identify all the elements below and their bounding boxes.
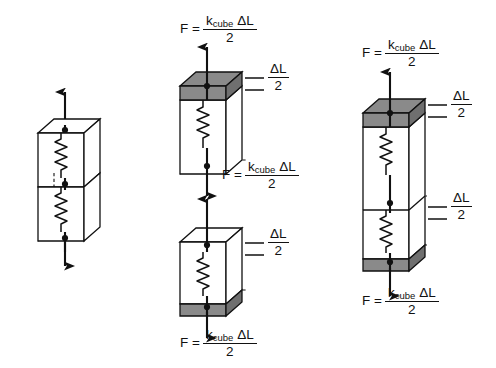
node-middle (387, 200, 393, 206)
delta-L: ΔL (237, 328, 254, 342)
node-bottom (387, 259, 393, 265)
fraction: kcube ΔL 2 (385, 38, 439, 68)
k-symbol: k (206, 14, 213, 28)
middle-force-label-middle: F = kcube ΔL 2 (222, 160, 299, 190)
k-subscript: cube (395, 291, 416, 301)
force-lhs: F = (362, 46, 382, 60)
fraction-denominator: 2 (226, 344, 234, 359)
node-lower-bottom (204, 304, 210, 310)
right-force-label-top: F = kcube ΔL 2 (362, 38, 439, 68)
fraction-denominator: 2 (268, 176, 276, 191)
diagram-canvas: F = kcube ΔL 2 ΔL 2 F = kcube ΔL 2 ΔL 2 … (0, 0, 496, 368)
elongation-numerator: ΔL (268, 227, 289, 243)
elongation-denominator: 2 (275, 78, 283, 93)
right-elongation-label-top: ΔL 2 (451, 89, 472, 119)
stack-body (363, 113, 425, 259)
delta-L: ΔL (419, 286, 436, 300)
elongation-ticks-upper (245, 78, 264, 90)
k-symbol: k (248, 160, 255, 174)
node-top (387, 110, 393, 116)
fraction: kcube ΔL 2 (203, 14, 257, 44)
force-lhs: F = (222, 168, 242, 182)
k-symbol: k (388, 286, 395, 300)
elongation-numerator: ΔL (451, 191, 472, 207)
elongation-numerator: ΔL (451, 89, 472, 105)
delta-L: ΔL (279, 160, 296, 174)
panel-left (38, 92, 100, 266)
elongation-numerator: ΔL (268, 62, 289, 78)
panel-middle (180, 47, 264, 338)
node-lower-top (204, 242, 210, 248)
fraction-numerator: kcube ΔL (203, 328, 257, 344)
elongation-denominator: 2 (458, 207, 466, 222)
fraction-numerator: kcube ΔL (385, 38, 439, 54)
force-lhs: F = (362, 294, 382, 308)
k-subscript: cube (213, 333, 234, 343)
fraction: kcube ΔL 2 (385, 286, 439, 316)
force-lhs: F = (180, 22, 200, 36)
middle-elongation-label-upper: ΔL 2 (268, 62, 289, 92)
fraction-numerator: kcube ΔL (203, 14, 257, 30)
node-bottom (62, 235, 68, 241)
node-top (62, 127, 68, 133)
fraction-numerator: kcube ΔL (385, 286, 439, 302)
middle-force-label-bottom: F = kcube ΔL 2 (180, 328, 257, 358)
node-middle (62, 181, 68, 187)
node-upper-bottom (204, 163, 210, 169)
delta-L: ΔL (419, 38, 436, 52)
right-elongation-label-bottom: ΔL 2 (451, 191, 472, 221)
k-symbol: k (206, 328, 213, 342)
fraction-denominator: 2 (408, 54, 416, 69)
force-lhs: F = (180, 336, 200, 350)
right-force-label-bottom: F = kcube ΔL 2 (362, 286, 439, 316)
panel-right (363, 72, 447, 296)
k-subscript: cube (395, 43, 416, 53)
node-upper-top (204, 83, 210, 89)
elongation-ticks-bottom (428, 207, 447, 219)
elongation-ticks-lower (245, 243, 264, 255)
elongation-denominator: 2 (275, 243, 283, 258)
k-subscript: cube (255, 165, 276, 175)
cube-lower-body (180, 228, 242, 304)
cube-upper (38, 119, 100, 187)
fraction-numerator: kcube ΔL (245, 160, 299, 176)
elongation-ticks-top (428, 105, 447, 117)
fraction: kcube ΔL 2 (203, 328, 257, 358)
fraction: kcube ΔL 2 (245, 160, 299, 190)
k-subscript: cube (213, 19, 234, 29)
k-symbol: k (388, 38, 395, 52)
middle-force-label-top: F = kcube ΔL 2 (180, 14, 257, 44)
delta-L: ΔL (237, 14, 254, 28)
elongation-denominator: 2 (458, 105, 466, 120)
middle-elongation-label-lower: ΔL 2 (268, 227, 289, 257)
fraction-denominator: 2 (408, 302, 416, 317)
fraction-denominator: 2 (226, 30, 234, 45)
